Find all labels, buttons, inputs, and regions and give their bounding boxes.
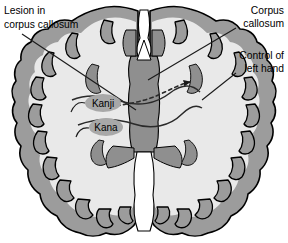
callout-corpus-callosum: Corpus callosum (243, 5, 284, 29)
callout-lesion-line2: corpus callosum (4, 19, 78, 30)
callout-control-left-hand-line1: Control of (239, 50, 284, 61)
callout-lesion: Lesion in corpus callosum (4, 5, 78, 30)
callout-control-left-hand-line2: left hand (244, 63, 284, 74)
callout-lesion-line1: Lesion in (4, 5, 45, 16)
interhemispheric-fissure-posterior (134, 152, 154, 231)
anterior-midline-gray-left (123, 30, 136, 56)
badge-kana[interactable]: Kana (89, 118, 123, 136)
callout-corpus-callosum-line2: callosum (243, 18, 284, 29)
badge-kanji[interactable]: Kanji (85, 94, 121, 112)
badge-kana-label: Kana (94, 122, 118, 133)
callout-corpus-callosum-line1: Corpus (251, 5, 284, 16)
anterior-midline-gray-right (152, 30, 165, 56)
badge-kanji-label: Kanji (92, 98, 114, 109)
brain-slice (12, 7, 276, 236)
figure-canvas: Kanji Kana Lesion in corpus callosum Cor… (0, 0, 288, 243)
brain-cross-section-figure: Kanji Kana Lesion in corpus callosum Cor… (0, 0, 288, 243)
